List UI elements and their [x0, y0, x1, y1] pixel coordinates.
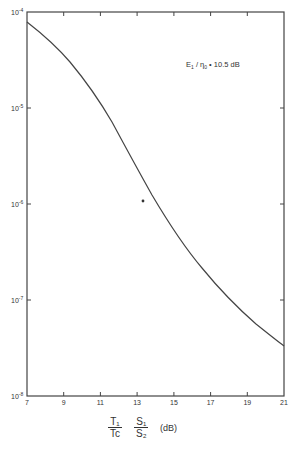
svg-text:10-6: 10-6 — [11, 199, 23, 208]
svg-text:21: 21 — [280, 399, 288, 406]
svg-text:10-7: 10-7 — [11, 295, 23, 304]
svg-text:17: 17 — [207, 399, 215, 406]
data-point-marker — [142, 200, 145, 203]
x-label-fraction-1: T₁ Tc — [108, 416, 122, 439]
x-axis-label: T₁ Tc S₁ S₂ (dB) — [108, 410, 228, 450]
svg-text:19: 19 — [243, 399, 251, 406]
plot-frame — [27, 12, 284, 396]
x-label-unit: (dB) — [160, 423, 177, 433]
annotation-text: E1 / η0 • 10.5 dB — [186, 60, 240, 70]
svg-text:13: 13 — [133, 399, 141, 406]
svg-text:7: 7 — [25, 399, 29, 406]
chart-svg: 10-4 10-5 10-6 10-7 10-8 7 9 11 13 15 17… — [0, 0, 293, 453]
svg-text:15: 15 — [170, 399, 178, 406]
svg-text:10-4: 10-4 — [11, 7, 23, 16]
x-label-fraction-2: S₁ S₂ — [134, 416, 149, 439]
svg-text:10-8: 10-8 — [11, 391, 23, 400]
data-curve — [27, 22, 284, 346]
svg-text:10-5: 10-5 — [11, 103, 23, 112]
x-ticks — [64, 12, 248, 396]
svg-text:11: 11 — [97, 399, 104, 406]
x-tick-labels: 7 9 11 13 15 17 19 21 — [25, 399, 288, 406]
svg-text:9: 9 — [62, 399, 66, 406]
y-ticks — [27, 108, 284, 300]
y-tick-labels: 10-4 10-5 10-6 10-7 10-8 — [11, 7, 23, 400]
